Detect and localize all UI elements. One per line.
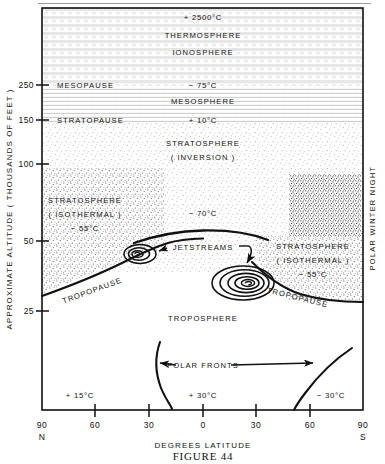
temp-surface-south: − 30°C	[317, 391, 345, 400]
x-tick-label-30s: 30	[251, 420, 261, 430]
layer-label-strat-iso-left-sub: ( ISOTHERMAL )	[48, 210, 121, 219]
y-tick-label-150: 150	[19, 115, 34, 125]
layer-label-mesopause: MESOPAUSE	[57, 81, 114, 90]
x-axis-tick-labels: 90 60 30 0 30 60 90	[37, 420, 368, 430]
layer-label-stratopause: STRATOPAUSE	[57, 116, 124, 125]
temp-stratosphere-inversion: − 70°C	[189, 209, 217, 218]
figure-44-atmospheric-cross-section: 250 150 100 50 25 90 60 30 0 30 60 90 N …	[0, 0, 385, 464]
temp-strat-iso-right: − 55°C	[299, 270, 327, 279]
temp-surface-equator: + 30°C	[189, 391, 217, 400]
x-tick-label-0: 0	[200, 420, 205, 430]
temp-strat-iso-left: − 55°C	[71, 224, 99, 233]
figure-caption: FIGURE 44	[173, 450, 234, 462]
temp-thermosphere: + 2500°C	[184, 13, 222, 22]
x-tick-label-60s: 60	[305, 420, 315, 430]
x-tick-label-90n: 90	[37, 420, 47, 430]
y-tick-label-50: 50	[24, 236, 34, 246]
hemisphere-label-north: N	[39, 432, 46, 442]
y-axis-tick-labels: 250 150 100 50 25	[19, 80, 34, 316]
x-tick-label-30n: 30	[144, 420, 154, 430]
y-tick-label-25: 25	[24, 306, 34, 316]
temp-stratopause: + 10°C	[189, 116, 217, 125]
y-axis-title: APPROXIMATE ALTITUDE ( THOUSANDS OF FEET…	[5, 88, 14, 329]
hemisphere-label-south: S	[360, 432, 366, 442]
layer-label-strat-iso-right-sub: ( ISOTHERMAL )	[276, 256, 349, 265]
layer-label-troposphere: TROPOSPHERE	[168, 314, 238, 323]
layer-label-ionosphere: IONOSPHERE	[172, 48, 233, 57]
jetstreams-label: JETSTREAMS	[173, 243, 234, 252]
x-tick-label-60n: 60	[90, 420, 100, 430]
layer-label-strat-iso-left: STRATOSPHERE	[48, 196, 122, 205]
polar-winter-night-dense-patch	[289, 174, 361, 236]
layer-label-mesosphere: MESOSPHERE	[171, 97, 235, 106]
polar-fronts-label: POLAR FRONTS	[167, 361, 239, 370]
x-axis-title: DEGREES LATITUDE	[154, 441, 251, 450]
polar-winter-night-label: POLAR WINTER NIGHT	[368, 166, 377, 271]
layer-label-thermosphere: THERMOSPHERE	[165, 31, 242, 40]
atmosphere-diagram-svg: 250 150 100 50 25 90 60 30 0 30 60 90 N …	[0, 0, 385, 464]
layer-label-stratosphere-inversion-sub: ( INVERSION )	[171, 153, 236, 162]
temp-mesopause: − 75°C	[189, 81, 217, 90]
layer-label-stratosphere-inversion: STRATOSPHERE	[166, 139, 240, 148]
y-tick-label-250: 250	[19, 80, 34, 90]
figure-caption-text: FIGURE 44	[173, 450, 234, 462]
x-tick-label-90s: 90	[358, 420, 368, 430]
temp-surface-north: + 15°C	[66, 391, 94, 400]
y-tick-label-100: 100	[19, 159, 34, 169]
layer-label-strat-iso-right: STRATOSPHERE	[276, 242, 350, 251]
